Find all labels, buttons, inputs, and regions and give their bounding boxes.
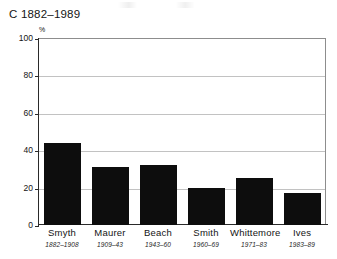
bar — [284, 193, 321, 225]
x-axis-category-group: Smyth1882–1908 — [38, 227, 86, 248]
x-axis-category-daterange: 1983–89 — [278, 241, 326, 248]
chart-title: C 1882–1989 — [9, 8, 80, 20]
y-axis-unit-label: % — [39, 26, 45, 33]
x-axis-category-name: Maurer — [86, 227, 134, 238]
y-axis-tick-label: 20 — [24, 183, 33, 193]
x-axis-category-daterange: 1882–1908 — [38, 241, 86, 248]
x-axis-category-group: Smith1960–69 — [182, 227, 230, 248]
bar — [236, 178, 273, 225]
x-axis-category-group: Ives1983–89 — [278, 227, 326, 248]
x-axis-category-name: Beach — [134, 227, 182, 238]
scan-artifact — [118, 2, 238, 8]
x-axis-category-name: Smith — [182, 227, 230, 238]
y-axis-tick-label: 40 — [24, 145, 33, 155]
x-axis-category-name: Ives — [278, 227, 326, 238]
y-axis-tick-label: 80 — [24, 70, 33, 80]
x-axis-category-daterange: 1960–69 — [182, 241, 230, 248]
x-axis-category-name: Whittemore — [230, 227, 278, 238]
x-axis-category-group: Maurer1909–43 — [86, 227, 134, 248]
x-axis-category-labels: Smyth1882–1908Maurer1909–43Beach1943–60S… — [38, 227, 326, 259]
x-axis-category-name: Smyth — [38, 227, 86, 238]
bar-chart-figure: C 1882–1989 % 100806040200 Smyth1882–190… — [0, 0, 337, 259]
x-axis-category-daterange: 1909–43 — [86, 241, 134, 248]
bar — [140, 165, 177, 225]
bar — [44, 143, 81, 225]
y-axis-tick-label: 60 — [24, 108, 33, 118]
x-axis-category-daterange: 1971–83 — [230, 241, 278, 248]
x-axis-category-daterange: 1943–60 — [134, 241, 182, 248]
y-axis-tick-label: 0 — [28, 220, 33, 230]
y-axis-tick-labels: 100806040200 — [0, 38, 33, 225]
bar — [188, 188, 225, 225]
y-axis-tick-label: 100 — [19, 33, 33, 43]
bar — [92, 167, 129, 225]
x-axis-category-group: Beach1943–60 — [134, 227, 182, 248]
bars-layer — [38, 38, 326, 225]
x-axis-category-group: Whittemore1971–83 — [230, 227, 278, 248]
